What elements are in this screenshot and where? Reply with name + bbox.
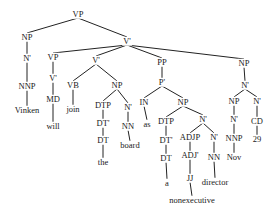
tree-node-label: V' [48,74,58,83]
tree-leaf-word: join [65,105,80,114]
tree-leaf-word: Vinken [14,106,41,115]
tree-node-label: DT [159,154,172,163]
tree-edge [27,18,78,33]
tree-node-label: PP [156,58,167,67]
tree-node-label: NN [207,153,221,162]
tree-node-label: JJ [186,174,195,183]
tree-node-label: N' [123,103,133,112]
tree-node-label: N' [240,81,250,90]
tree-node-label: NP [177,98,190,107]
tree-node-label: NNP [224,134,243,143]
tree-leaf-word: a [164,179,170,188]
tree-node-label: N' [252,97,262,106]
tree-node-label: N' [198,115,208,124]
tree-node-label: DTP [94,101,112,110]
tree-leaf-word: the [97,158,109,167]
tree-node-label: NNP [17,82,36,91]
tree-leaf-word: director [201,178,229,187]
tree-leaf-word: will [45,122,60,131]
tree-leaf-word: nonexecutive [168,196,215,205]
syntax-tree-diagram: VPNPN'NNPVinkenV'VPV'MDwillV'VBjoinNPDTP… [0,0,276,213]
tree-edge [73,64,96,81]
tree-node-label: V' [122,37,132,46]
tree-node-label: ADJ' [180,151,199,160]
tree-node-label: VB [66,81,80,90]
tree-node-label: N' [229,115,239,124]
tree-node-label: P' [158,78,166,87]
tree-node-label: MD [45,95,61,104]
tree-edges [0,0,276,213]
tree-leaf-word: as [142,120,151,129]
tree-node-label: V' [91,56,101,65]
tree-leaf-word: Nov [226,153,243,162]
tree-node-label: DT' [159,136,174,145]
tree-node-label: NP [111,81,124,90]
tree-node-label: NP [21,33,34,42]
tree-leaf-word: board [119,141,140,150]
tree-node-label: VP [72,10,85,19]
tree-edge [214,161,215,178]
tree-node-label: DTP [157,117,175,126]
tree-node-label: DT [96,136,109,145]
tree-leaf-word: 29 [252,135,263,144]
tree-node-label: NP [238,59,251,68]
tree-node-label: CD [250,117,264,126]
tree-node-label: N' [22,54,32,63]
tree-node-label: DT' [96,119,111,128]
tree-edge [166,162,167,179]
tree-node-label: NN [121,122,135,131]
tree-edge [78,18,127,37]
tree-node-label: N' [209,133,219,142]
tree-node-label: NP [228,97,241,106]
tree-node-label: VP [47,53,60,62]
tree-node-label: IN [139,98,150,107]
tree-node-label: ADJP [179,133,201,142]
tree-edge [96,64,117,81]
